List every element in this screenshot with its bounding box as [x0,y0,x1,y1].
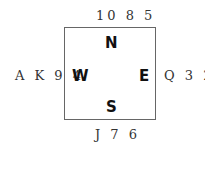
south-hand: J 7 6 [95,127,140,142]
bridge-table: N W E S [64,27,156,120]
north-hand: 10 8 5 [96,8,155,23]
seat-west: W [72,67,89,85]
seat-north: N [105,34,118,52]
east-hand: Q 3 2 [164,68,205,83]
seat-east: E [139,67,149,85]
seat-south: S [106,98,117,116]
